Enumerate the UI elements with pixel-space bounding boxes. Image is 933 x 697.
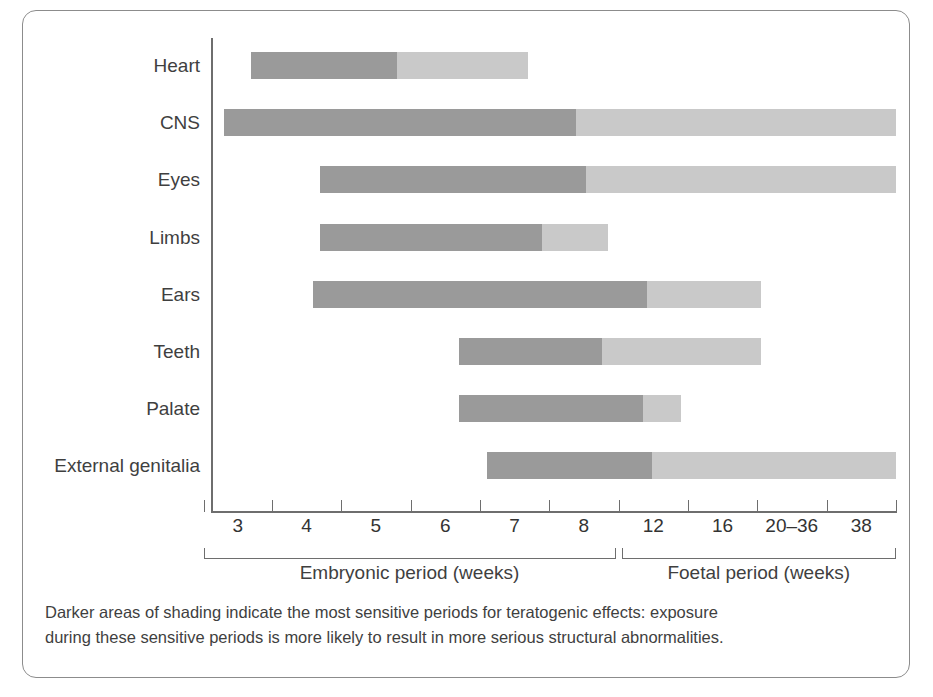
bar-external-genitalia: [487, 452, 896, 479]
bar-segment-sensitive: [459, 395, 642, 422]
period-label-1: Foetal period (weeks): [622, 562, 897, 584]
bar-segment-sensitive: [487, 452, 652, 479]
category-label-teeth: Teeth: [0, 341, 200, 363]
x-tick-4: [480, 500, 481, 512]
bar-palate: [459, 395, 681, 422]
period-label-0: Embryonic period (weeks): [204, 562, 616, 584]
bar-ears: [313, 281, 761, 308]
category-label-limbs: Limbs: [0, 227, 200, 249]
x-tick-label-5: 8: [549, 515, 619, 537]
bar-segment-sensitive: [459, 338, 602, 365]
bar-eyes: [320, 166, 896, 193]
bar-cns: [224, 109, 896, 136]
bar-segment-sensitive: [224, 109, 576, 136]
bar-segment-less-sensitive: [643, 395, 682, 422]
bar-teeth: [459, 338, 761, 365]
x-tick-label-4: 7: [480, 515, 550, 537]
x-tick-label-1: 4: [272, 515, 342, 537]
category-label-heart: Heart: [0, 55, 200, 77]
bar-segment-sensitive: [313, 281, 646, 308]
x-tick-7: [688, 500, 689, 512]
bar-segment-less-sensitive: [652, 452, 896, 479]
x-tick-5: [549, 500, 550, 512]
x-tick-label-8: 20–36: [757, 515, 827, 537]
bar-segment-less-sensitive: [542, 224, 608, 251]
x-tick-label-9: 38: [826, 515, 896, 537]
bar-segment-less-sensitive: [586, 166, 896, 193]
x-tick-label-6: 12: [618, 515, 688, 537]
bar-segment-less-sensitive: [647, 281, 762, 308]
bar-heart: [251, 52, 528, 79]
x-axis-line: [211, 511, 897, 513]
category-label-ears: Ears: [0, 284, 200, 306]
period-bracket-0: [204, 548, 616, 559]
x-tick-9: [827, 500, 828, 512]
caption-line-1: Darker areas of shading indicate the mos…: [45, 600, 895, 625]
x-tick-8: [757, 500, 758, 512]
bar-segment-sensitive: [320, 224, 542, 251]
category-label-cns: CNS: [0, 112, 200, 134]
category-label-eyes: Eyes: [0, 169, 200, 191]
figure-caption: Darker areas of shading indicate the mos…: [45, 600, 895, 650]
x-tick-3: [411, 500, 412, 512]
x-tick-label-2: 5: [341, 515, 411, 537]
bar-segment-less-sensitive: [397, 52, 529, 79]
x-tick-label-7: 16: [688, 515, 758, 537]
x-tick-2: [341, 500, 342, 512]
x-tick-label-3: 6: [410, 515, 480, 537]
caption-line-2: during these sensitive periods is more l…: [45, 625, 895, 650]
x-tick-0: [204, 500, 205, 512]
bar-limbs: [320, 224, 608, 251]
x-tick-6: [619, 500, 620, 512]
bar-segment-less-sensitive: [602, 338, 761, 365]
bar-segment-sensitive: [320, 166, 586, 193]
bar-segment-less-sensitive: [576, 109, 896, 136]
x-tick-label-0: 3: [203, 515, 273, 537]
category-label-external-genitalia: External genitalia: [0, 455, 200, 477]
period-bracket-1: [622, 548, 897, 559]
teratogenic-sensitivity-chart: HeartCNSEyesLimbsEarsTeethPalateExternal…: [0, 0, 933, 697]
category-label-palate: Palate: [0, 398, 200, 420]
x-tick-1: [272, 500, 273, 512]
x-tick-10: [896, 500, 897, 512]
y-axis-line: [211, 38, 213, 512]
bar-segment-sensitive: [251, 52, 396, 79]
